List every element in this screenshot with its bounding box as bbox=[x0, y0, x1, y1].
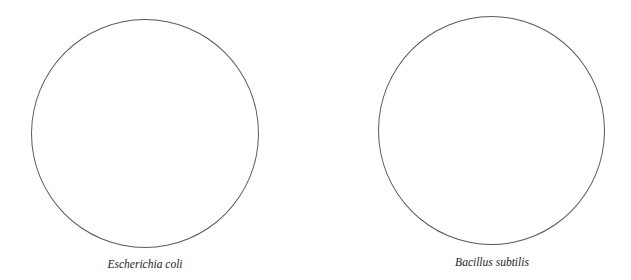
e-coli-label: Escherichia coli bbox=[107, 258, 182, 270]
b-subtilis-label: Bacillus subtilis bbox=[455, 256, 529, 268]
b-subtilis-circle bbox=[378, 16, 605, 245]
e-coli-circle bbox=[31, 19, 259, 248]
